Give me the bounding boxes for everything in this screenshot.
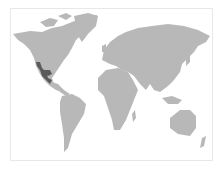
- madagascar: [132, 110, 136, 122]
- new-zealand: [200, 136, 206, 148]
- southeast-asia-islands: [162, 96, 182, 104]
- africa: [98, 68, 138, 130]
- british-isles: [102, 44, 106, 52]
- world-map: [0, 0, 223, 170]
- south-america: [60, 94, 86, 152]
- australia: [170, 110, 196, 136]
